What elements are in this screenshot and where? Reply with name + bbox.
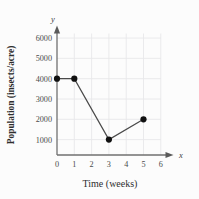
data-point-marker [54, 76, 60, 82]
y-tick-label: 1000 [36, 136, 52, 145]
y-axis-title: Population (insects/acre) [6, 46, 17, 145]
y-axis-arrowhead-icon [54, 26, 60, 34]
y-tick-label: 5000 [36, 54, 52, 63]
x-tick-label: 6 [159, 160, 163, 169]
y-tick-label: 4000 [36, 75, 52, 84]
x-tick-labels: 0 1 2 3 4 5 6 [55, 160, 163, 169]
x-axis-arrowhead-icon [166, 152, 174, 158]
x-tick-label: 2 [90, 160, 94, 169]
axes [54, 26, 174, 159]
data-series-population [54, 76, 147, 143]
population-line-chart: 1000 2000 3000 4000 5000 6000 0 1 2 3 4 … [0, 0, 199, 199]
y-axis-variable-name: y [50, 14, 55, 24]
chart-figure: 1000 2000 3000 4000 5000 6000 0 1 2 3 4 … [0, 0, 199, 199]
data-point-marker [140, 116, 146, 122]
x-axis-title: Time (weeks) [83, 178, 138, 190]
y-tick-labels: 1000 2000 3000 4000 5000 6000 [36, 34, 52, 145]
data-point-marker [71, 76, 77, 82]
x-tick-label: 5 [141, 160, 145, 169]
x-axis-variable-name: x [178, 150, 183, 160]
data-point-marker [106, 137, 112, 143]
x-tick-label: 3 [107, 160, 111, 169]
x-tick-label: 4 [124, 160, 128, 169]
y-tick-label: 2000 [36, 115, 52, 124]
x-tick-label: 0 [55, 160, 59, 169]
y-tick-label: 6000 [36, 34, 52, 43]
y-tick-label: 3000 [36, 95, 52, 104]
x-tick-label: 1 [72, 160, 76, 169]
data-line-path [57, 79, 144, 140]
